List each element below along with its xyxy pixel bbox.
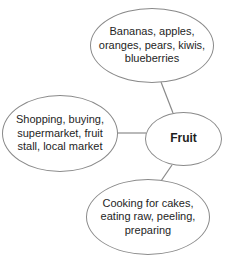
connector-fruit-uses — [161, 165, 172, 181]
center-label: Fruit — [170, 132, 197, 146]
node-types: Bananas, apples, oranges, pears, kiwis, … — [90, 8, 214, 83]
node-buying-label: Shopping, buying, supermarket, fruit sta… — [9, 113, 111, 154]
node-center-fruit: Fruit — [145, 112, 222, 166]
node-uses-label: Cooking for cakes, eating raw, peeling, … — [93, 197, 203, 238]
node-uses: Cooking for cakes, eating raw, peeling, … — [86, 179, 210, 255]
node-types-label: Bananas, apples, oranges, pears, kiwis, … — [97, 25, 207, 66]
node-buying: Shopping, buying, supermarket, fruit sta… — [2, 95, 118, 172]
connector-types-fruit — [161, 82, 173, 113]
